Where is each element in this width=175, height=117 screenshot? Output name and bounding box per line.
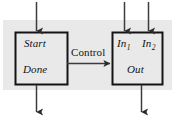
datapath-in2-label: In2	[142, 38, 155, 49]
datapath-in1-label-subscript: 1	[127, 43, 131, 52]
block-diagram-figure: Start Done Control In1 In2 Out	[0, 0, 175, 117]
datapath-out-label: Out	[127, 64, 144, 75]
controller-start-label: Start	[24, 38, 46, 49]
datapath-in2-label-subscript: 2	[152, 43, 156, 52]
controller-done-label: Done	[23, 64, 47, 75]
datapath-in2-label-text: In	[142, 37, 151, 49]
datapath-in1-label: In1	[117, 38, 130, 49]
datapath-in1-label-text: In	[117, 37, 126, 49]
diagram-canvas	[0, 0, 175, 117]
control-edge-label: Control	[71, 47, 105, 58]
